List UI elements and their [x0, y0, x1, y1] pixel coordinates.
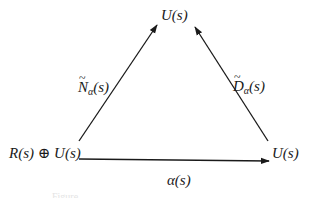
arrows-layer [0, 0, 310, 198]
commutative-diagram: U(s) R(s) ⊕ U(s) U(s) ~ N α(s) ~ D α(s) … [0, 0, 310, 198]
node-bottom-right-u: U(s) [272, 146, 299, 161]
node-bottom-left-r-plus-u: R(s) ⊕ U(s) [9, 146, 81, 161]
node-top-u: U(s) [161, 8, 188, 23]
arrow-left-to-right [79, 159, 269, 161]
tilde-accent: ~ [234, 71, 241, 83]
edge-label-d-alpha: ~ D α(s) [233, 79, 265, 96]
figure-caption: Figure [52, 191, 78, 198]
label-arg: (s) [93, 79, 109, 95]
d-tilde: ~ D [233, 79, 244, 94]
edge-label-n-alpha: ~ N α(s) [78, 80, 109, 97]
edge-label-alpha: α(s) [167, 173, 191, 188]
label-arg: (s) [249, 78, 265, 94]
n-tilde: ~ N [78, 80, 88, 95]
tilde-accent: ~ [79, 72, 86, 84]
